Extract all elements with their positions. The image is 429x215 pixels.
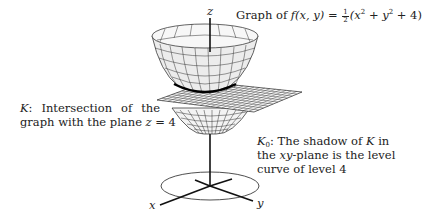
- one-half-fraction: 12: [342, 9, 348, 24]
- z-axis-label: z: [207, 4, 213, 18]
- x-axis-label: x: [149, 198, 156, 212]
- y-axis-label: y: [257, 196, 264, 210]
- lower-paraboloid: [172, 108, 250, 134]
- annotation-k0: K0: The shadow of K in the xy-plane is t…: [257, 134, 383, 176]
- annotation-k: K: Intersection of the graph with the pl…: [20, 101, 160, 129]
- xyz-axes: [160, 130, 253, 205]
- upper-paraboloid: [152, 24, 258, 94]
- graph-title: Graph of f(x, y) = 12(x2 + y2 + 4): [236, 8, 422, 24]
